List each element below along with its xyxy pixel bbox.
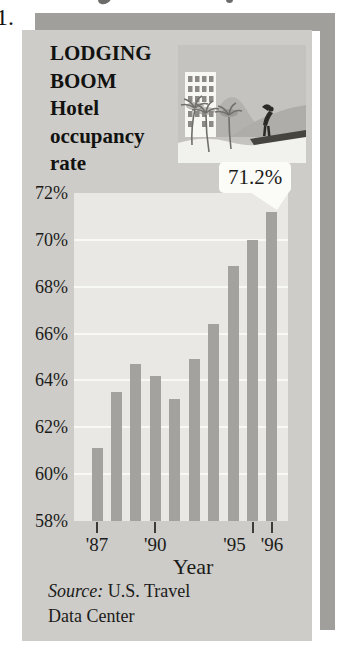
bar-91 xyxy=(169,399,180,521)
y-tick-label: 62% xyxy=(24,417,68,438)
card-shadow-right xyxy=(320,13,335,630)
bar-87 xyxy=(92,448,103,521)
bar-96 xyxy=(266,212,277,521)
bar-94 xyxy=(228,266,239,521)
callout-tail xyxy=(250,192,290,211)
value-callout: 71.2% xyxy=(219,162,291,193)
x-tick-mark xyxy=(252,522,254,533)
infographic-card: LODGING BOOM Hotel occupancy rate xyxy=(22,30,312,641)
source-prefix: Source: xyxy=(48,581,103,601)
title-line: BOOM xyxy=(50,68,152,96)
x-tick-label: '95 xyxy=(223,534,245,556)
x-tick-label: '87 xyxy=(86,534,108,556)
cropped-text-fragment xyxy=(226,0,233,3)
x-tick-label: '96 xyxy=(261,534,283,556)
bar-89 xyxy=(130,364,141,521)
source-text-line2: Data Center xyxy=(48,604,190,629)
x-tick-mark xyxy=(154,522,156,533)
bar-88 xyxy=(111,392,122,521)
x-tick-mark xyxy=(271,522,273,533)
plot-area xyxy=(74,193,288,521)
x-tick-label: '90 xyxy=(144,534,166,556)
bar-92 xyxy=(189,359,200,521)
y-tick-label: 68% xyxy=(24,277,68,298)
x-tick-mark xyxy=(96,522,98,533)
title-line: occupancy xyxy=(50,123,152,151)
chart-title: LODGING BOOM Hotel occupancy rate xyxy=(50,40,152,178)
cropped-text-fragment xyxy=(97,0,112,6)
title-line: rate xyxy=(50,150,152,178)
source-text: U.S. Travel xyxy=(103,581,190,601)
exercise-number: 1. xyxy=(0,4,14,31)
y-tick-label: 72% xyxy=(24,183,68,204)
y-tick-label: 64% xyxy=(24,370,68,391)
resort-hotel-scene-illustration xyxy=(178,45,306,163)
scanned-textbook-page: 1. LODGING BOOM Hotel occupancy rate xyxy=(0,0,341,661)
y-tick-label: 60% xyxy=(24,464,68,485)
source-note: Source: U.S. Travel Data Center xyxy=(48,579,190,629)
y-tick-label: 58% xyxy=(24,511,68,532)
title-line: LODGING xyxy=(50,40,152,68)
title-line: Hotel xyxy=(50,95,152,123)
bar-95 xyxy=(247,240,258,521)
y-tick-label: 70% xyxy=(24,230,68,251)
bar-90 xyxy=(150,376,161,521)
card-shadow-top xyxy=(35,13,335,31)
bar-93 xyxy=(208,324,219,521)
y-tick-label: 66% xyxy=(24,324,68,345)
x-axis-title: Year xyxy=(153,554,233,580)
